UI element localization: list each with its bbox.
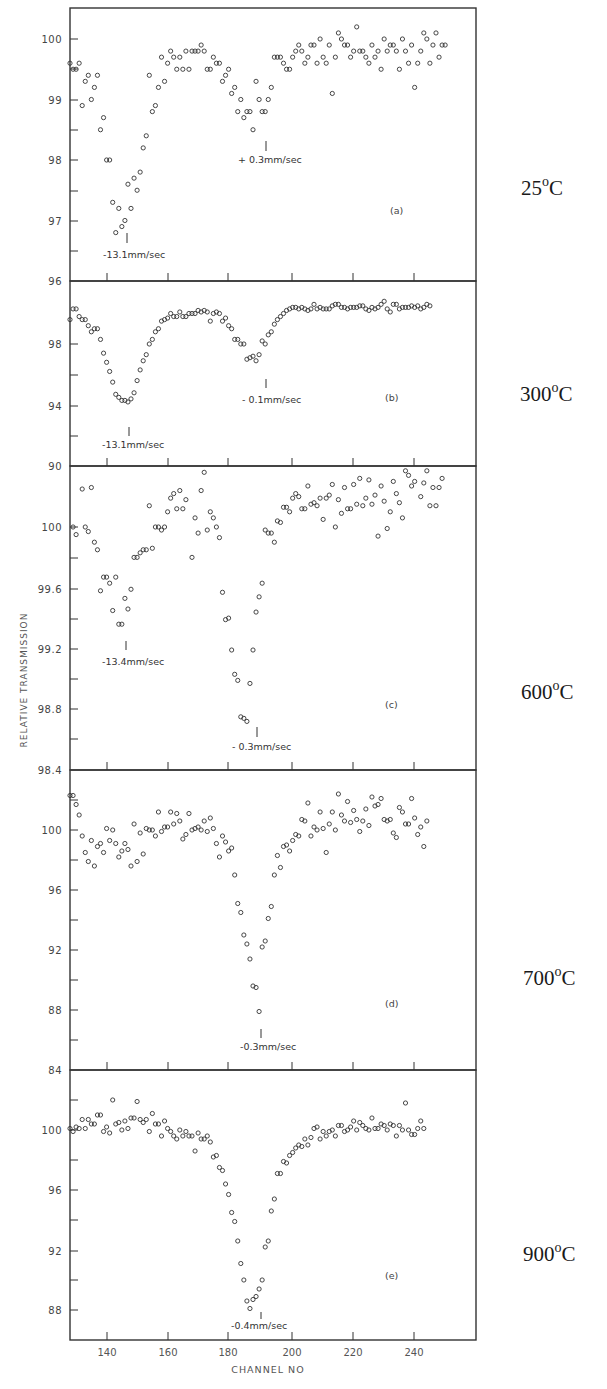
peak-annotation: -0.3mm/sec [240, 1041, 296, 1052]
plot-frame [70, 770, 476, 1070]
x-axis-label: CHANNEL NO [231, 1364, 304, 1375]
plot-frame [70, 8, 476, 281]
plot-frame [70, 466, 476, 770]
panel-d: 10096928884-0.3mm/sec(d) [41, 770, 476, 1076]
y-tick-label: 90 [48, 461, 62, 472]
temperature-label-25: 25oC [521, 176, 563, 201]
data-points [71, 469, 444, 724]
y-tick-label: 100 [41, 1125, 62, 1136]
panel-a: 10099989796-13.1mm/sec+ 0.3mm/sec(a) [41, 8, 476, 287]
panel-tag: (c) [385, 699, 398, 710]
x-tick-label: 160 [158, 1347, 177, 1358]
plot-frame [70, 1070, 476, 1340]
y-tick-label: 96 [48, 1185, 62, 1196]
y-tick-label: 98 [48, 155, 62, 166]
y-tick-label: 92 [48, 1246, 62, 1257]
panel-c: 10099.699.298.898.4-13.4mm/sec- 0.3mm/se… [38, 466, 476, 776]
data-points [68, 1098, 426, 1311]
x-tick-label: 220 [343, 1347, 362, 1358]
y-tick-label: 99 [48, 95, 62, 106]
peak-annotation: - 0.1mm/sec [242, 394, 301, 405]
temperature-label-700: 700oC [523, 966, 576, 991]
temperature-label-600: 600oC [521, 680, 574, 705]
temperature-label-900: 900oC [523, 1242, 576, 1267]
y-tick-label: 96 [48, 885, 62, 896]
y-tick-label: 88 [48, 1305, 62, 1316]
y-tick-label: 100 [41, 825, 62, 836]
y-tick-label: 92 [48, 945, 62, 956]
panel-tag: (b) [385, 392, 398, 403]
data-points [68, 299, 432, 404]
x-tick-label: 240 [404, 1347, 423, 1358]
peak-annotation: -13.1mm/sec [102, 439, 164, 450]
y-tick-label: 99.6 [38, 584, 62, 595]
y-tick-label: 84 [48, 1065, 62, 1076]
y-tick-label: 100 [41, 34, 62, 45]
x-tick-label: 180 [218, 1347, 237, 1358]
y-tick-label: 99.2 [38, 644, 62, 655]
panel-tag: (e) [385, 1270, 398, 1281]
data-points [68, 25, 447, 235]
data-points [68, 792, 429, 1014]
peak-annotation: + 0.3mm/sec [238, 154, 302, 165]
y-tick-label: 98 [48, 339, 62, 350]
peak-annotation: -13.1mm/sec [103, 249, 165, 260]
panel-e: 100969288-0.4mm/sec(e) [41, 1070, 476, 1340]
y-tick-label: 98.4 [38, 765, 62, 776]
panel-tag: (a) [390, 205, 403, 216]
peak-annotation: - 0.3mm/sec [232, 741, 291, 752]
y-tick-label: 94 [48, 401, 62, 412]
temperature-label-300: 300oC [520, 382, 573, 407]
x-tick-label: 140 [97, 1347, 116, 1358]
peak-annotation: -13.4mm/sec [102, 656, 164, 667]
y-axis-label: RELATIVE TRANSMISSION [19, 613, 29, 748]
panel-b: 989490-13.1mm/sec- 0.1mm/sec(b) [48, 281, 476, 472]
y-tick-label: 97 [48, 216, 62, 227]
panel-tag: (d) [385, 998, 398, 1009]
x-tick-label: 200 [282, 1347, 301, 1358]
y-tick-label: 100 [41, 522, 62, 533]
y-tick-label: 88 [48, 1005, 62, 1016]
y-tick-label: 96 [48, 276, 62, 287]
y-tick-label: 98.8 [38, 704, 62, 715]
mossbauer-figure: 10099989796-13.1mm/sec+ 0.3mm/sec(a)9894… [0, 0, 607, 1389]
peak-annotation: -0.4mm/sec [231, 1320, 287, 1331]
